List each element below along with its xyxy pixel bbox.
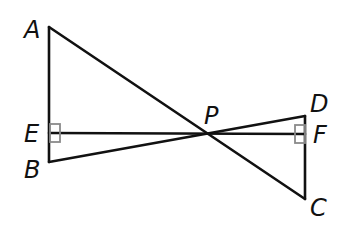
label-C: C [310, 194, 327, 222]
label-B: B [24, 156, 40, 184]
label-D: D [310, 90, 328, 118]
geometry-diagram: A E B P D F C [0, 0, 357, 235]
label-E: E [24, 120, 40, 148]
label-P: P [204, 102, 219, 130]
segment-AC [49, 27, 305, 199]
label-A: A [22, 16, 40, 44]
segment-BD [49, 116, 305, 162]
segment-EF [49, 133, 305, 134]
label-F: F [313, 121, 328, 149]
